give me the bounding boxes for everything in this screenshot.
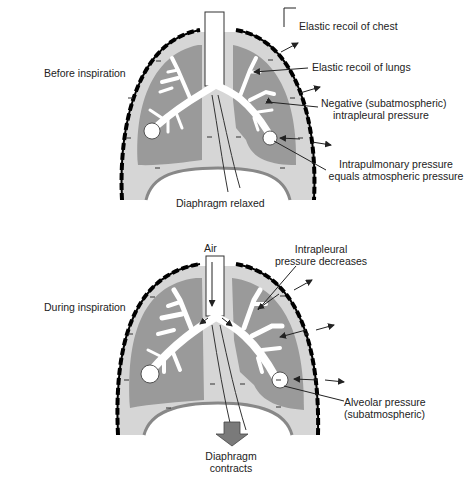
label-line: Intrapleural: [266, 243, 376, 255]
label-line: Negative (subatmospheric): [321, 97, 472, 109]
label-diaphragm-relaxed: Diaphragm relaxed: [176, 197, 265, 209]
label-air: Air: [204, 242, 217, 254]
panel-title-before: Before inspiration: [44, 67, 126, 79]
left-lung: [137, 45, 202, 165]
alveolus-left: [141, 365, 159, 383]
during-inspiration-lungs: [117, 256, 344, 446]
label-negative-intrapleural: Negative (subatmospheric) intrapleural p…: [321, 97, 472, 121]
label-line: Alveolar pressure: [344, 396, 426, 408]
label-alveolar-pressure: Alveolar pressure (subatmospheric): [344, 396, 426, 420]
label-intrapulmonary-pressure: Intrapulmonary pressure equals atmospher…: [326, 158, 466, 182]
panel-title-during: During inspiration: [44, 301, 126, 313]
alveolus-right: [263, 131, 277, 145]
label-elastic-recoil-chest: Elastic recoil of chest: [299, 20, 398, 32]
label-intrapleural-decreases: Intrapleural pressure decreases: [266, 243, 376, 267]
down-arrow-icon: [216, 422, 248, 446]
label-line: intrapleural pressure: [321, 109, 472, 121]
trachea: [206, 256, 224, 316]
label-line: Intrapulmonary pressure: [326, 158, 466, 170]
label-line: equals atmospheric pressure: [326, 170, 466, 182]
trachea: [205, 12, 224, 86]
label-line: Diaphragm: [196, 450, 266, 462]
alveolus-left: [144, 123, 160, 139]
left-lung: [129, 278, 204, 408]
label-diaphragm-contracts: Diaphragm contracts: [196, 450, 266, 474]
label-line: (subatmospheric): [344, 408, 426, 420]
before-inspiration-lungs: [122, 8, 331, 200]
label-elastic-recoil-lungs: Elastic recoil of lungs: [312, 61, 411, 73]
label-line: contracts: [196, 462, 266, 474]
label-line: pressure decreases: [266, 255, 376, 267]
